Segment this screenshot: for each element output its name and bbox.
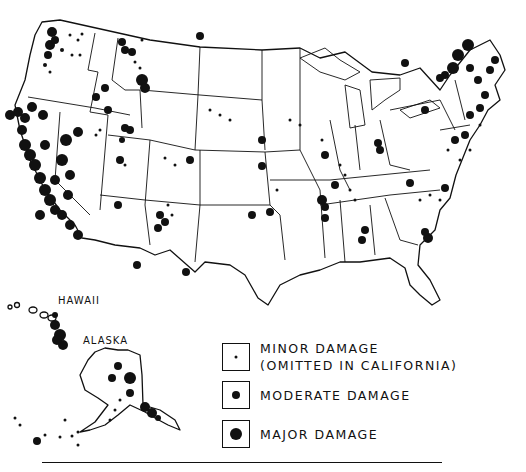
moderate-dot-icon [232,391,240,399]
alaska-label: ALASKA [83,335,128,346]
legend-item-major: MAJOR DAMAGE [222,420,378,448]
legend-note-minor: (OMITTED IN CALIFORNIA) [260,357,457,374]
bottom-divider [42,462,442,463]
contiguous-us-outline [15,20,505,305]
legend-item-minor: MINOR DAMAGE (OMITTED IN CALIFORNIA) [222,340,457,374]
legend-box-minor [222,343,250,371]
state-borders [28,33,470,262]
major-dot-icon [230,428,242,440]
great-lakes [300,48,440,128]
hawaii-islands [8,303,56,322]
legend-box-major [222,420,250,448]
legend-label-major: MAJOR DAMAGE [260,426,378,443]
legend-label-minor: MINOR DAMAGE [260,340,457,357]
legend-label-moderate: MODERATE DAMAGE [260,387,411,404]
legend-box-moderate [222,381,250,409]
hawaii-label: HAWAII [58,295,100,306]
minor-dot-icon [235,356,238,359]
legend-item-moderate: MODERATE DAMAGE [222,381,411,409]
